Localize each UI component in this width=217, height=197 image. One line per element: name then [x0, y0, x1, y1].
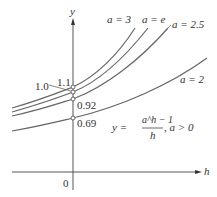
leader-line-a25	[168, 25, 171, 28]
point-1.0	[71, 90, 75, 94]
h-axis-label: h	[204, 165, 210, 177]
point-1.1	[71, 85, 75, 89]
label-a2: a = 2	[180, 73, 204, 85]
value-1.0: 1.0	[35, 80, 49, 92]
value-0.92: 0.92	[77, 99, 96, 111]
chart: y h 0 a = 3 a = e a = 2.5 a = 2 1.1 1.0 …	[0, 0, 217, 197]
value-1.1: 1.1	[57, 76, 71, 88]
equation-condition: , a > 0	[164, 121, 193, 133]
equation-lhs: y =	[112, 121, 127, 133]
point-0.92	[71, 97, 75, 101]
point-0.69	[71, 116, 75, 120]
value-0.69: 0.69	[77, 117, 96, 129]
equation-denominator: h	[150, 129, 156, 141]
h-axis-arrow-icon	[195, 170, 202, 174]
label-ae: a = e	[142, 13, 165, 25]
origin-label: 0	[63, 177, 69, 189]
label-a3: a = 3	[107, 13, 131, 25]
y-axis-label: y	[70, 5, 75, 17]
label-a25: a = 2.5	[172, 18, 204, 30]
y-axis-arrow-icon	[71, 18, 75, 25]
